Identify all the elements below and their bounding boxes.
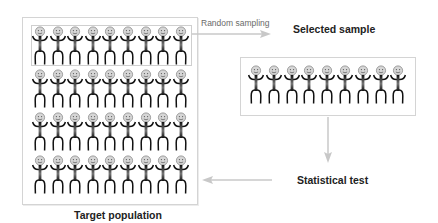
random-sampling-label: Random sampling bbox=[201, 18, 270, 28]
statistical-test-label: Statistical test bbox=[297, 174, 368, 186]
random-sampling-arrow bbox=[192, 30, 271, 38]
sample-to-test-arrow bbox=[324, 117, 332, 163]
selected-sample-label: Selected sample bbox=[293, 23, 375, 35]
test-to-population-arrow bbox=[202, 176, 272, 184]
target-population-label: Target population bbox=[74, 209, 162, 221]
